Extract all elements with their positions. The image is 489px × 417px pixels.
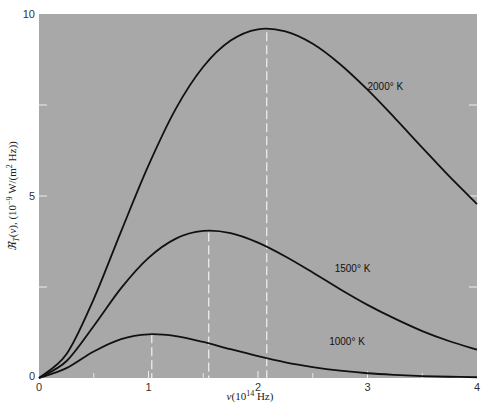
curve-label-1000k: 1000° K xyxy=(329,336,365,347)
x-tick-label: 0 xyxy=(36,381,42,393)
curve-label-2000k: 2000° K xyxy=(368,81,404,92)
y-tick-label: 0 xyxy=(29,370,35,382)
x-tick-label: 3 xyxy=(364,381,370,393)
x-tick-label: 4 xyxy=(474,381,480,393)
x-axis-title: ν(1014 Hz) xyxy=(227,389,274,403)
blackbody-spectrum-chart: 2000° K1500° K1000° K 01234 0510 ν(1014 … xyxy=(0,0,489,417)
y-tick-labels: 0510 xyxy=(23,8,35,382)
y-tick-label: 10 xyxy=(23,8,35,20)
y-axis-title: ℜT(ν), (10−9 W/(m2 Hz)) xyxy=(5,141,21,251)
plot-area xyxy=(39,14,477,378)
x-tick-label: 1 xyxy=(145,381,151,393)
y-tick-label: 5 xyxy=(29,190,35,202)
curve-label-1500k: 1500° K xyxy=(335,263,371,274)
